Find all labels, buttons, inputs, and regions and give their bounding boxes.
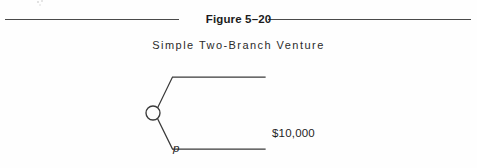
branch-line-upper bbox=[158, 77, 266, 108]
scan-artifact bbox=[36, 0, 46, 7]
decision-tree-diagram: p 1 – p $10,000 $0 bbox=[0, 58, 477, 168]
figure-subtitle: Simple Two-Branch Venture bbox=[0, 38, 477, 53]
figure-header: Figure 5–20 bbox=[0, 11, 477, 29]
figure-title: Figure 5–20 bbox=[0, 11, 477, 28]
probability-label-upper: p bbox=[173, 142, 180, 154]
payoff-label-upper: $10,000 bbox=[272, 127, 315, 139]
figure-container: Figure 5–20 Simple Two-Branch Venture p … bbox=[0, 0, 477, 168]
chance-node-circle bbox=[146, 106, 160, 120]
decision-tree-svg bbox=[0, 58, 477, 168]
